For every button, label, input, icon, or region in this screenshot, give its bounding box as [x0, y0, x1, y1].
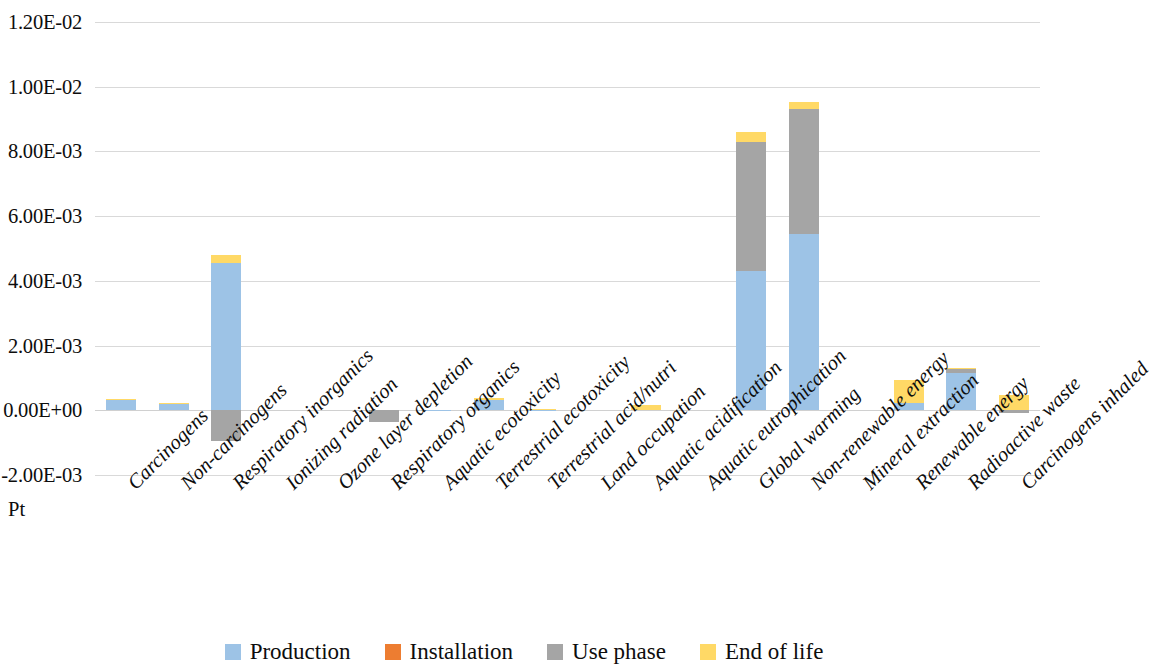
bar-segment-end-of-life: [736, 132, 766, 142]
y-axis-tick-label: 2.00E-03: [8, 334, 82, 357]
bar-segment-end-of-life: [159, 403, 189, 404]
bar-segment-production: [211, 263, 241, 410]
legend-color-swatch: [385, 644, 401, 660]
bar-segment-end-of-life: [789, 102, 819, 109]
legend-label: Production: [250, 640, 351, 663]
legend-label: End of life: [725, 640, 823, 663]
legend-color-swatch: [700, 644, 716, 660]
bar-segment-production: [159, 403, 189, 410]
legend-item[interactable]: Production: [225, 640, 351, 663]
bar-segment-production: [106, 400, 136, 410]
legend-item[interactable]: Installation: [385, 640, 513, 663]
legend-color-swatch: [547, 644, 563, 660]
legend-item[interactable]: Use phase: [547, 640, 666, 663]
y-axis-tick-label: 1.20E-02: [8, 11, 82, 34]
legend-label: Installation: [410, 640, 513, 663]
bar-segment-end-of-life: [106, 399, 136, 400]
y-axis-tick-label: 0.00E+00: [3, 399, 82, 422]
bar-group: [95, 22, 148, 475]
legend-item[interactable]: End of life: [700, 640, 823, 663]
bar-segment-use-phase: [789, 109, 819, 234]
y-axis-tick-label: 1.00E-02: [8, 75, 82, 98]
legend-label: Use phase: [572, 640, 666, 663]
bar-segment-use-phase: [736, 142, 766, 271]
legend-color-swatch: [225, 644, 241, 660]
x-axis-category-labels: CarcinogensNon-carcinogensRespiratory in…: [0, 478, 1048, 628]
bar-segment-end-of-life: [211, 255, 241, 263]
bar-group: [200, 22, 253, 475]
y-axis-tick-label: 6.00E-03: [8, 205, 82, 228]
y-axis-tick-label: 8.00E-03: [8, 140, 82, 163]
y-axis-tick-label: 4.00E-03: [8, 269, 82, 292]
chart-legend: ProductionInstallationUse phaseEnd of li…: [0, 640, 1048, 663]
bar-segment-end-of-life: [946, 368, 976, 369]
bar-segment-use-phase: [946, 368, 976, 373]
